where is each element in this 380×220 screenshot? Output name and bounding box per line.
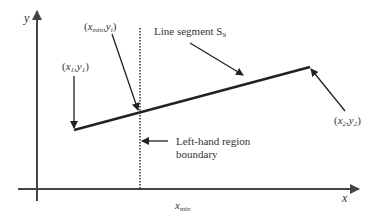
segment-arrow [190,43,243,75]
boundary-annotation: Left-hand region boundary [142,135,251,160]
x-axis: x [18,189,359,205]
boundary-label-line2: boundary [176,148,218,160]
boundary-label-line1: Left-hand region [176,135,251,147]
xmin-axis-label: xmin [174,199,191,213]
y-axis-label: y [23,11,30,25]
point-pi-annotation: (xmin,yi) [84,20,138,110]
x-axis-label: x [341,191,348,205]
segment-annotation: Line segment S9 [154,25,243,75]
point-p1-annotation: (x1,y1) [62,60,89,128]
point-pi-label: (xmin,yi) [84,20,117,34]
line-clipping-diagram: y x (x1,y1) (xmin,yi) Line s [0,0,380,220]
pi-arrow [112,34,138,110]
y-axis: y [23,11,37,201]
p2-arrow [311,69,345,111]
segment-label: Line segment S9 [154,25,226,39]
point-p2-annotation: (x2,y2) [311,69,361,128]
point-p2-label: (x2,y2) [334,114,361,128]
line-segment-s9 [74,67,310,130]
point-p1-label: (x1,y1) [62,60,89,74]
